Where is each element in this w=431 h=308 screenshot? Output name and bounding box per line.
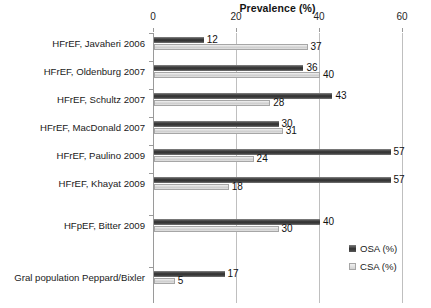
legend-swatch-icon xyxy=(349,245,356,252)
category-label: Gral population Peppard/Bixler xyxy=(14,272,145,283)
category-label: HFrEF, Schultz 2007 xyxy=(57,94,145,105)
bar-csa xyxy=(154,128,283,134)
x-tick-mark-20 xyxy=(236,28,237,32)
bar-csa xyxy=(154,184,229,190)
legend-item-osa[interactable]: OSA (%) xyxy=(349,243,397,254)
category-label: HFrEF, Paulino 2009 xyxy=(56,150,145,161)
gridline-60 xyxy=(402,33,403,303)
bar-osa xyxy=(154,121,279,127)
bar-value-label: 40 xyxy=(323,217,334,227)
bar-osa xyxy=(154,65,303,71)
bar-value-label: 31 xyxy=(286,126,297,136)
prevalence-bar-chart: Prevalence (%) HFrEF, Javaheri 2006HFrEF… xyxy=(0,0,431,308)
bar-value-label: 43 xyxy=(335,91,346,101)
x-tick-mark-0 xyxy=(153,28,154,32)
category-label: HFrEF, MacDonald 2007 xyxy=(40,122,145,133)
bar-csa xyxy=(154,226,279,232)
legend-label: OSA (%) xyxy=(360,243,397,254)
x-tick-label-60: 60 xyxy=(396,11,407,22)
bar-csa xyxy=(154,72,320,78)
x-tick-label-40: 40 xyxy=(313,11,324,22)
y-tick-mark xyxy=(149,117,153,118)
y-tick-mark xyxy=(149,61,153,62)
bar-value-label: 57 xyxy=(394,147,405,157)
bar-csa xyxy=(154,156,254,162)
bar-value-label: 17 xyxy=(228,269,239,279)
bar-value-label: 24 xyxy=(257,154,268,164)
bar-value-label: 18 xyxy=(232,182,243,192)
category-label: HFrEF, Oldenburg 2007 xyxy=(44,66,145,77)
category-label: HFrEF, Khayat 2009 xyxy=(59,178,145,189)
bar-value-label: 30 xyxy=(282,224,293,234)
y-tick-mark xyxy=(149,267,153,268)
bar-osa xyxy=(154,271,225,277)
bar-value-label: 57 xyxy=(394,175,405,185)
category-labels-column: HFrEF, Javaheri 2006HFrEF, Oldenburg 200… xyxy=(0,33,149,303)
legend-swatch-icon xyxy=(349,263,356,270)
y-tick-mark xyxy=(149,89,153,90)
bar-csa xyxy=(154,100,270,106)
bar-osa xyxy=(154,37,204,43)
x-tick-mark-40 xyxy=(319,28,320,32)
legend-label: CSA (%) xyxy=(360,261,397,272)
bar-value-label: 40 xyxy=(323,70,334,80)
bar-value-label: 28 xyxy=(273,98,284,108)
y-tick-mark xyxy=(149,145,153,146)
bar-osa xyxy=(154,219,320,225)
bar-osa xyxy=(154,149,391,155)
bar-value-label: 37 xyxy=(311,42,322,52)
legend-item-csa[interactable]: CSA (%) xyxy=(349,261,397,272)
y-tick-mark xyxy=(149,215,153,216)
bar-csa xyxy=(154,278,175,284)
category-label: HFpEF, Bitter 2009 xyxy=(64,220,145,231)
bar-csa xyxy=(154,44,308,50)
chart-title: Prevalence (%) xyxy=(153,2,402,14)
bar-osa xyxy=(154,93,332,99)
chart-legend: OSA (%)CSA (%) xyxy=(349,243,397,279)
x-tick-mark-60 xyxy=(402,28,403,32)
bar-osa xyxy=(154,177,391,183)
y-tick-mark xyxy=(149,33,153,34)
y-tick-mark xyxy=(149,173,153,174)
bar-value-label: 5 xyxy=(178,276,184,286)
x-tick-label-0: 0 xyxy=(150,11,156,22)
x-tick-label-20: 20 xyxy=(230,11,241,22)
category-label: HFrEF, Javaheri 2006 xyxy=(52,38,145,49)
